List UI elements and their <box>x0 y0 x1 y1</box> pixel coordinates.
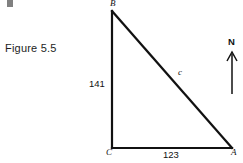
side-label-base: 123 <box>163 149 179 160</box>
side-label-vertical: 141 <box>89 78 105 89</box>
vertex-label-c: C <box>106 147 112 157</box>
triangle-diagram <box>0 0 243 163</box>
vertex-label-a: A <box>231 147 237 157</box>
vertex-label-b: B <box>110 0 116 8</box>
north-label: N <box>228 36 235 47</box>
side-label-hypotenuse: c <box>178 67 182 77</box>
triangle-side-hypotenuse <box>112 11 232 148</box>
figure-container: Figure 5.5 B C A 141 123 c N <box>0 0 243 163</box>
